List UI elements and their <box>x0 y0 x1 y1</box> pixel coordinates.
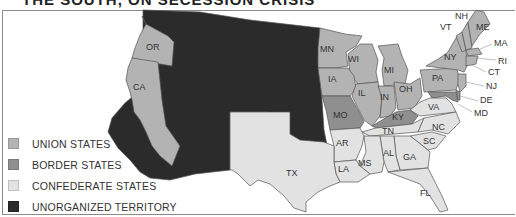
label-nh: NH <box>455 11 468 21</box>
border-swatch-icon <box>8 159 19 170</box>
legend-item-confederate: CONFEDERATE STATES <box>8 175 177 196</box>
label-il: IL <box>358 88 366 98</box>
label-sc: SC <box>423 136 436 146</box>
label-fl: FL <box>420 188 431 198</box>
state-ms <box>360 136 384 174</box>
state-nj <box>458 74 466 92</box>
label-in: IN <box>380 92 389 102</box>
label-vt: VT <box>440 22 452 32</box>
label-va: VA <box>428 102 439 112</box>
legend-item-border: BORDER STATES <box>8 154 177 175</box>
label-de: DE <box>480 95 493 105</box>
label-oh: OH <box>399 84 413 94</box>
label-tn: TN <box>382 126 394 136</box>
label-ny: NY <box>444 52 457 62</box>
label-ms: MS <box>358 158 372 168</box>
label-wi: WI <box>348 54 359 64</box>
legend-label: UNION STATES <box>32 138 110 150</box>
legend-item-union: UNION STATES <box>8 133 177 154</box>
label-ar: AR <box>336 138 349 148</box>
label-ky: KY <box>392 112 404 122</box>
label-mn: MN <box>320 44 334 54</box>
leader-line-ct <box>470 64 486 72</box>
leader-line-md <box>458 104 472 112</box>
leader-line-nj <box>466 82 484 86</box>
label-tx: TX <box>286 168 298 178</box>
label-ma: MA <box>494 38 508 48</box>
leader-line-ma <box>478 44 492 50</box>
label-mi: MI <box>384 65 394 75</box>
label-md: MD <box>474 108 488 118</box>
legend-label: CONFEDERATE STATES <box>32 180 156 192</box>
label-or: OR <box>146 42 160 52</box>
label-nj: NJ <box>486 81 497 91</box>
label-pa: PA <box>432 73 443 83</box>
legend-item-unorganized: UNORGANIZED TERRITORY <box>8 196 177 217</box>
map-legend: UNION STATES BORDER STATES CONFEDERATE S… <box>8 133 177 217</box>
label-ia: IA <box>328 74 337 84</box>
label-al: AL <box>383 148 394 158</box>
label-ct: CT <box>488 67 500 77</box>
label-ri: RI <box>498 56 507 66</box>
label-nc: NC <box>432 122 445 132</box>
unorganized-swatch-icon <box>8 201 19 212</box>
leader-line-ri <box>476 58 496 60</box>
label-mo: MO <box>333 110 348 120</box>
label-ca: CA <box>133 82 146 92</box>
label-me: ME <box>476 22 490 32</box>
confederate-swatch-icon <box>8 180 19 191</box>
union-swatch-icon <box>8 138 19 149</box>
label-la: LA <box>338 164 349 174</box>
legend-label: UNORGANIZED TERRITORY <box>32 201 177 213</box>
state-ct-ri <box>466 56 478 66</box>
state-fl <box>388 168 448 212</box>
legend-label: BORDER STATES <box>32 159 122 171</box>
label-ga: GA <box>403 152 416 162</box>
leader-line-de <box>460 96 478 101</box>
state-ia <box>318 68 356 96</box>
